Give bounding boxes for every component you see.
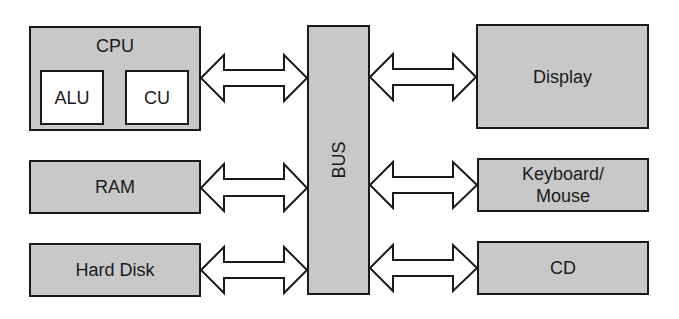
connection-arrows [0,0,679,319]
double-arrow-icon [201,247,307,293]
double-arrow-icon [201,55,307,101]
double-arrow-icon [370,162,477,208]
double-arrow-icon [201,164,307,211]
double-arrow-icon [370,245,477,291]
double-arrow-icon [370,54,476,100]
